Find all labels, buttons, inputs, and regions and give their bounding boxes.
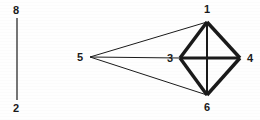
- node-label-5: 5: [77, 52, 83, 63]
- graph-canvas: [0, 0, 260, 120]
- graph-figure: 8213456: [0, 0, 260, 120]
- node-label-6: 6: [204, 102, 210, 113]
- node-label-3: 3: [167, 53, 173, 64]
- node-label-1: 1: [204, 4, 210, 15]
- scale-bar-top-label: 8: [13, 5, 19, 16]
- thick-edge-group: [180, 22, 240, 95]
- edge-5-6: [90, 57, 207, 95]
- edge-1-4: [207, 22, 240, 58]
- edge-1-3: [180, 22, 207, 58]
- scale-bar-bottom-label: 2: [13, 103, 19, 114]
- edge-4-6: [207, 58, 240, 95]
- edge-3-6: [180, 58, 207, 95]
- node-label-4: 4: [247, 53, 253, 64]
- edge-5-1: [90, 22, 207, 57]
